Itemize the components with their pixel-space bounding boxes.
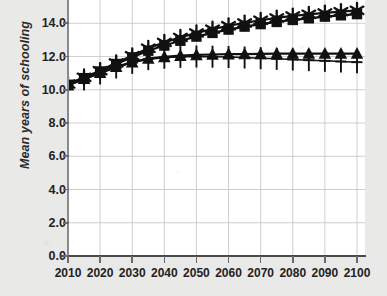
y-tick-mark (63, 89, 69, 91)
x-tick-mark (260, 256, 262, 263)
x-tick-mark (228, 256, 230, 263)
y-tick-label: 10.0 (20, 83, 66, 97)
series-layer (68, 3, 363, 97)
y-tick-label: 12.0 (20, 50, 66, 64)
y-tick-mark (63, 222, 69, 224)
x-tick-label: 2080 (279, 266, 306, 280)
y-tick-mark (63, 56, 69, 58)
x-tick-mark (67, 256, 69, 263)
chart-figure: Mean years of schooling 0.02.04.06.08.01… (0, 0, 387, 296)
series-star (68, 3, 363, 91)
x-tick-label: 2050 (183, 266, 210, 280)
x-tick-label: 2060 (215, 266, 242, 280)
x-tick-mark (324, 256, 326, 263)
x-tick-mark (356, 256, 358, 263)
y-tick-mark (63, 155, 69, 157)
x-tick-label: 2010 (55, 266, 82, 280)
y-axis-tick-labels: 0.02.04.06.08.010.012.014.0 (14, 0, 66, 296)
gridlines (68, 0, 365, 256)
y-axis-line (67, 0, 69, 257)
x-tick-mark (196, 256, 198, 263)
x-tick-label: 2090 (312, 266, 339, 280)
plot-svg (68, 0, 365, 256)
series-square (68, 9, 362, 90)
y-tick-mark (63, 122, 69, 124)
y-tick-label: 8.0 (20, 116, 66, 130)
x-tick-label: 2040 (151, 266, 178, 280)
y-tick-label: 6.0 (20, 149, 66, 163)
x-axis-line (60, 255, 366, 257)
y-tick-label: 2.0 (20, 216, 66, 230)
x-tick-mark (292, 256, 294, 263)
x-tick-label: 2100 (344, 266, 371, 280)
x-tick-mark (99, 256, 101, 263)
y-tick-label: 4.0 (20, 183, 66, 197)
plot-area (68, 0, 365, 256)
x-tick-label: 2030 (119, 266, 146, 280)
y-tick-mark (63, 22, 69, 24)
y-tick-label: 14.0 (20, 16, 66, 30)
y-tick-mark (63, 189, 69, 191)
x-tick-mark (164, 256, 166, 263)
x-tick-mark (131, 256, 133, 263)
x-tick-label: 2070 (247, 266, 274, 280)
x-tick-label: 2020 (87, 266, 114, 280)
